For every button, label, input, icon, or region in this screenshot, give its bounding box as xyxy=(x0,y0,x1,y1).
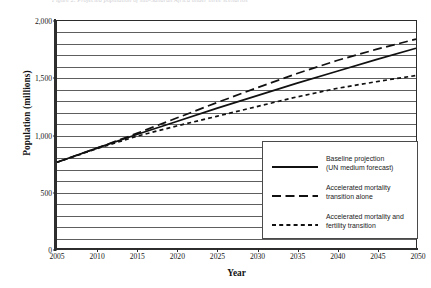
x-tick-label: 2015 xyxy=(130,252,145,261)
plot-area: 05001,0001,5002,000 20052010201520202025… xyxy=(56,20,417,249)
legend-label: Accelerated mortality and fertility tran… xyxy=(326,212,404,230)
x-tick-label: 2020 xyxy=(170,252,185,261)
legend-label: Baseline projection (UN medium forecast) xyxy=(326,154,393,172)
y-axis-title: Population (millions) xyxy=(22,38,32,188)
x-tick-mark xyxy=(137,248,138,252)
x-tick-mark xyxy=(177,248,178,252)
x-tick-label: 2050 xyxy=(410,252,425,261)
legend-swatch-short-dash xyxy=(272,216,318,226)
x-tick-label: 2010 xyxy=(90,252,105,261)
figure-caption: Figure 2. Projected population of sub-Sa… xyxy=(52,0,352,5)
population-projection-figure: Figure 2. Projected population of sub-Sa… xyxy=(0,0,431,288)
x-tick-mark xyxy=(298,248,299,252)
x-tick-label: 2005 xyxy=(49,252,64,261)
x-tick-mark xyxy=(378,248,379,252)
legend-swatch-long-dash xyxy=(272,187,318,197)
x-tick-label: 2045 xyxy=(370,252,385,261)
legend-swatch-solid xyxy=(272,158,318,168)
legend-label: Accelerated mortality transition alone xyxy=(326,183,390,201)
legend-item: Accelerated mortality and fertility tran… xyxy=(263,208,417,234)
x-axis-title: Year xyxy=(56,268,417,278)
x-tick-label: 2025 xyxy=(210,252,225,261)
x-tick-mark xyxy=(338,248,339,252)
x-tick-mark xyxy=(97,248,98,252)
x-tick-label: 2040 xyxy=(330,252,345,261)
y-tick-mark xyxy=(53,250,57,251)
x-tick-mark xyxy=(258,248,259,252)
x-tick-label: 2035 xyxy=(290,252,305,261)
x-tick-mark xyxy=(217,248,218,252)
x-tick-label: 2030 xyxy=(250,252,265,261)
legend-item: Baseline projection (UN medium forecast) xyxy=(263,150,417,176)
chart-legend: Baseline projection (UN medium forecast)… xyxy=(262,141,418,239)
legend-item: Accelerated mortality transition alone xyxy=(263,179,417,205)
